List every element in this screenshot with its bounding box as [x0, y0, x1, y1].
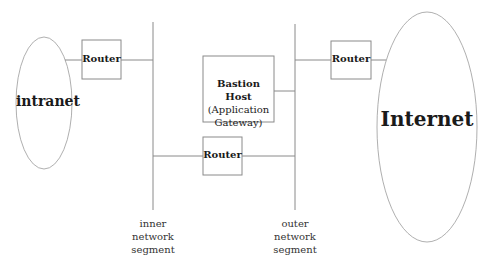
outer-segment-line2: network [270, 230, 320, 243]
inner-segment-line1: inner [128, 217, 178, 230]
intranet-label: intranet [16, 93, 72, 109]
bastion-host-subtitle-2: Gateway) [203, 116, 274, 129]
inner-segment-line3: segment [128, 243, 178, 256]
outer-segment-line1: outer [270, 217, 320, 230]
bastion-host-label: Bastion Host (Application Gateway) [203, 77, 274, 129]
outer-segment-label: outer network segment [270, 217, 320, 256]
bastion-host-subtitle-1: (Application [203, 103, 274, 116]
inner-segment-label: inner network segment [128, 217, 178, 256]
router-middle-label: Router [203, 149, 242, 160]
router-inner-label: Router [82, 53, 121, 64]
bastion-host-title: Bastion Host [203, 77, 274, 103]
outer-segment-line3: segment [270, 243, 320, 256]
router-outer-label: Router [331, 53, 371, 64]
internet-label: Internet [377, 107, 477, 131]
diagram-canvas [0, 0, 487, 269]
inner-segment-line2: network [128, 230, 178, 243]
